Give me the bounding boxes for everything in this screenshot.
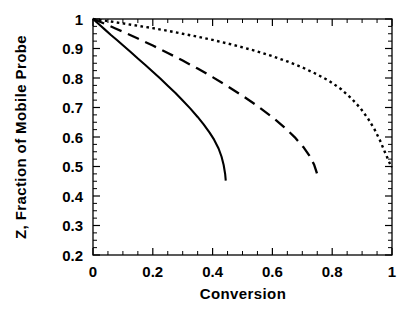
x-axis-title-group: Conversion bbox=[200, 285, 287, 302]
y-axis-title-group: Z, Fraction of Mobile Probe bbox=[12, 35, 29, 239]
y-tick-label: 0.4 bbox=[62, 188, 84, 205]
y-axis-title: Z, Fraction of Mobile Probe bbox=[12, 35, 29, 239]
x-tick-label: 0.2 bbox=[142, 263, 163, 280]
x-tick-label: 1 bbox=[388, 263, 396, 280]
plot-frame bbox=[93, 19, 392, 255]
y-axis-tick-labels: 0.20.30.40.50.60.70.80.91 bbox=[62, 11, 84, 264]
y-tick-label: 0.8 bbox=[62, 70, 83, 87]
x-tick-label: 0.8 bbox=[322, 263, 343, 280]
y-tick-label: 1 bbox=[75, 11, 83, 28]
data-series-layer bbox=[93, 19, 392, 181]
y-tick-label: 0.5 bbox=[62, 158, 83, 175]
y-tick-label: 0.2 bbox=[62, 247, 83, 264]
axis-ticks bbox=[93, 19, 392, 255]
y-tick-label: 0.9 bbox=[62, 40, 83, 57]
series-dotted bbox=[93, 19, 392, 167]
y-tick-label: 0.6 bbox=[62, 129, 83, 146]
x-tick-label: 0 bbox=[89, 263, 97, 280]
chart-figure: Z, Fraction of Mobile Probe Conversion 0… bbox=[0, 0, 414, 314]
y-tick-label: 0.7 bbox=[62, 99, 83, 116]
x-axis-tick-labels: 00.20.40.60.81 bbox=[89, 263, 396, 280]
plot-border bbox=[93, 19, 392, 255]
x-axis-title: Conversion bbox=[200, 285, 287, 302]
x-tick-label: 0.6 bbox=[262, 263, 283, 280]
x-tick-label: 0.4 bbox=[202, 263, 224, 280]
series-solid bbox=[93, 19, 226, 181]
line-chart: Z, Fraction of Mobile Probe Conversion 0… bbox=[0, 0, 414, 314]
y-tick-label: 0.3 bbox=[62, 217, 83, 234]
series-long-dashed bbox=[93, 19, 318, 177]
